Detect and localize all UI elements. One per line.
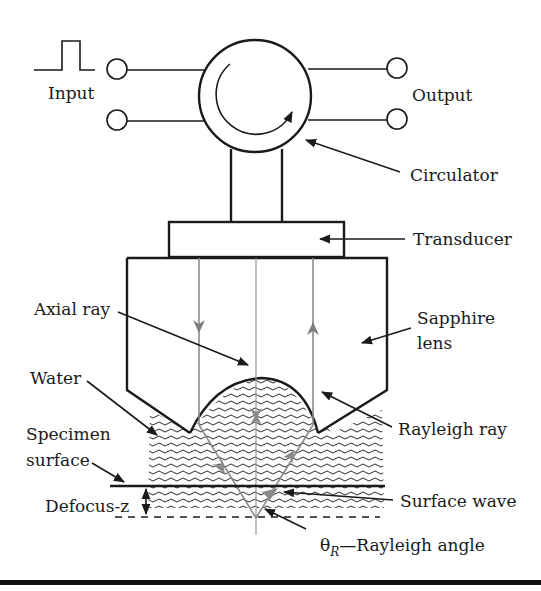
input-label: Input — [48, 83, 94, 103]
circulator-label: Circulator — [410, 165, 499, 185]
input-pulse-icon — [34, 41, 95, 70]
surface-wave-label: Surface wave — [400, 491, 517, 511]
defocus-label: Defocus-z — [45, 496, 129, 516]
acoustic-microscope-diagram: Input Output Circulator Transducer — [0, 0, 541, 591]
rayleigh-angle-symbol: θ — [320, 535, 330, 555]
rayleigh-angle-label: θR—Rayleigh angle — [320, 535, 485, 559]
transducer — [169, 222, 344, 257]
water-label: Water — [30, 368, 82, 388]
circulator-pointer-arrow — [306, 140, 400, 172]
transducer-label: Transducer — [413, 229, 513, 249]
sapphire-lens-label-line1: Sapphire — [417, 308, 495, 328]
circulator — [199, 40, 311, 152]
input-terminals — [107, 59, 204, 130]
specimen-surface-label-line2: surface — [26, 450, 90, 470]
sapphire-lens-label-line2: lens — [417, 333, 452, 353]
bottom-rule-divider — [0, 580, 541, 585]
rayleigh-angle-pointer-arrow — [265, 509, 306, 529]
rayleigh-angle-text: —Rayleigh angle — [339, 535, 485, 555]
axial-ray-label: Axial ray — [33, 299, 111, 319]
output-terminals — [308, 58, 407, 129]
rayleigh-ray-label: Rayleigh ray — [398, 419, 507, 439]
rayleigh-angle-subscript: R — [329, 545, 339, 559]
specimen-surface-label-line1: Specimen — [26, 424, 111, 444]
output-label: Output — [412, 85, 473, 105]
circulator-stem — [231, 149, 282, 222]
specimen-surface-pointer-arrow — [92, 463, 124, 482]
